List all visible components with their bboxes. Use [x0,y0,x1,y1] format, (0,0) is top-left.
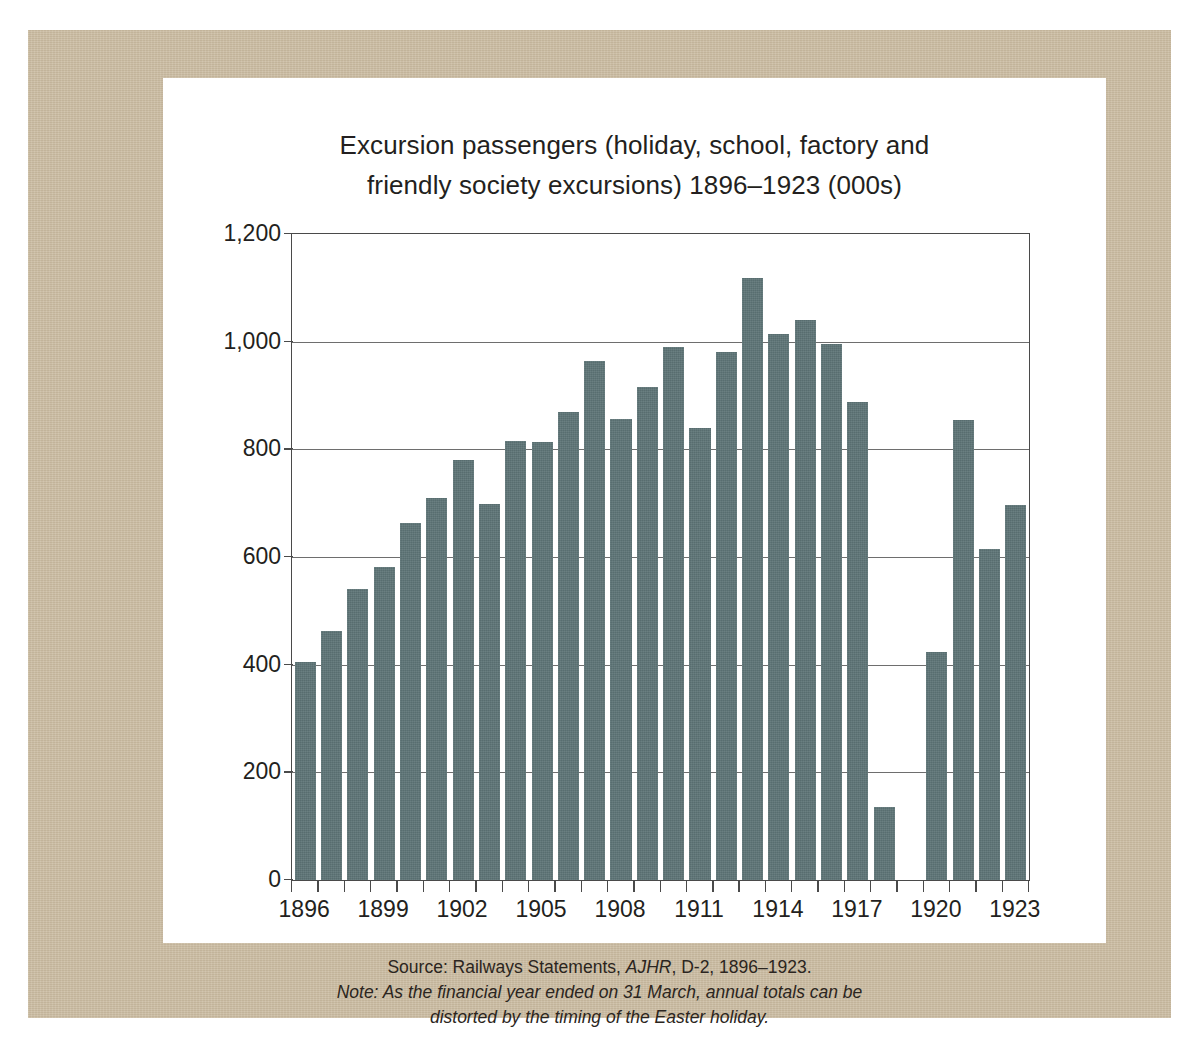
x-axis-tick-11 [581,881,582,892]
bar-1900[interactable] [400,523,421,880]
x-axis-tick-17 [738,881,739,892]
x-axis-tick-1 [317,881,318,892]
x-axis-tick-9 [528,881,529,892]
bar-1904[interactable] [505,441,526,880]
bar-1911[interactable] [689,428,710,880]
caption-note-line-2: distorted by the timing of the Easter ho… [28,1005,1171,1030]
figure-page: Excursion passengers (holiday, school, f… [0,0,1199,1047]
x-axis-tick-7 [475,881,476,892]
x-axis-tick-20 [817,881,818,892]
caption-source-publication: AJHR [626,957,672,977]
x-axis-label-1917: 1917 [831,896,882,923]
bar-1897[interactable] [321,631,342,880]
x-axis-tick-10 [554,881,555,892]
x-axis-tick-4 [396,881,397,892]
bar-1918[interactable] [874,807,895,880]
bars-layer [292,234,1029,880]
x-axis-tick-25 [949,881,950,892]
x-axis-tick-16 [712,881,713,892]
chart-card: Excursion passengers (holiday, school, f… [163,78,1106,943]
chart-title-line-1: Excursion passengers (holiday, school, f… [163,125,1106,165]
x-axis-label-1908: 1908 [594,896,645,923]
x-axis-tick-8 [502,881,503,892]
figure-board: Excursion passengers (holiday, school, f… [28,30,1171,1018]
x-axis-tick-24 [923,881,924,892]
y-axis-ticks [163,233,295,881]
bar-1922[interactable] [979,549,1000,880]
chart-title: Excursion passengers (holiday, school, f… [163,125,1106,205]
bar-1896[interactable] [295,662,316,880]
x-axis-tick-22 [870,881,871,892]
bar-1909[interactable] [637,387,658,880]
x-axis-ticks [291,881,1030,893]
x-axis-tick-27 [1002,881,1003,892]
x-axis-label-1920: 1920 [910,896,961,923]
x-axis-label-1905: 1905 [515,896,566,923]
x-axis-tick-26 [975,881,976,892]
bar-1913[interactable] [742,278,763,880]
x-axis-tick-14 [660,881,661,892]
x-axis-label-1911: 1911 [674,896,723,923]
bar-1903[interactable] [479,504,500,880]
bar-1914[interactable] [768,334,789,880]
bar-1902[interactable] [453,460,474,880]
x-axis-label-1923: 1923 [989,896,1040,923]
bar-1915[interactable] [795,320,816,880]
x-axis-tick-6 [449,881,450,892]
x-axis-tick-21 [844,881,845,892]
x-axis-tick-15 [686,881,687,892]
x-axis-label-1896: 1896 [279,896,330,923]
caption-source: Source: Railways Statements, AJHR, D-2, … [28,955,1171,980]
x-axis-label-1899: 1899 [358,896,409,923]
caption-source-suffix: , D-2, 1896–1923. [671,957,811,977]
x-axis-tick-23 [896,881,897,892]
x-axis-tick-0 [291,881,292,892]
chart-title-line-2: friendly society excursions) 1896–1923 (… [163,165,1106,205]
x-axis-tick-28 [1028,881,1029,892]
x-axis-labels: 1896189919021905190819111914191719201923 [291,896,1030,930]
x-axis-label-1914: 1914 [752,896,803,923]
caption-note-line-1: Note: As the financial year ended on 31 … [28,980,1171,1005]
bar-1901[interactable] [426,498,447,880]
bar-1917[interactable] [847,402,868,880]
bar-1907[interactable] [584,361,605,880]
bar-1905[interactable] [532,442,553,880]
bar-1899[interactable] [374,567,395,880]
x-axis-label-1902: 1902 [436,896,487,923]
bar-1906[interactable] [558,412,579,880]
bar-1908[interactable] [610,419,631,880]
x-axis-tick-3 [370,881,371,892]
bar-1910[interactable] [663,347,684,880]
bar-1921[interactable] [953,420,974,880]
x-axis-tick-18 [765,881,766,892]
bar-1920[interactable] [926,652,947,880]
x-axis-tick-13 [633,881,634,892]
x-axis-tick-5 [423,881,424,892]
x-axis-tick-19 [791,881,792,892]
bar-1898[interactable] [347,589,368,880]
bar-1923[interactable] [1005,505,1026,880]
bar-1912[interactable] [716,352,737,880]
caption-source-prefix: Source: Railways Statements, [387,957,625,977]
figure-caption: Source: Railways Statements, AJHR, D-2, … [28,955,1171,1030]
x-axis-tick-12 [607,881,608,892]
x-axis-tick-2 [344,881,345,892]
bar-1916[interactable] [821,344,842,880]
